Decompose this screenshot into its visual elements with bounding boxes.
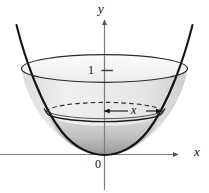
origin-label: 0 xyxy=(95,157,101,172)
paraboloid-drawing xyxy=(0,0,209,193)
radius-label: x xyxy=(131,103,136,118)
y-axis-label: y xyxy=(98,1,104,17)
paraboloid-figure: y x 0 1 x xyxy=(0,0,209,193)
y-tick-1-label: 1 xyxy=(88,63,94,78)
x-axis-label: x xyxy=(194,144,200,160)
